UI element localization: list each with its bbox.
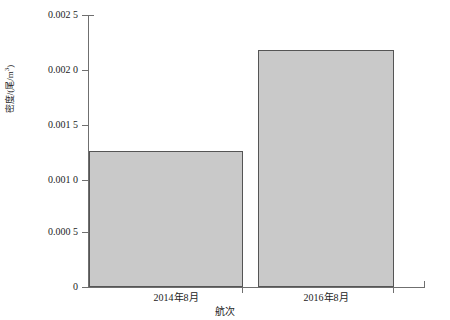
y-axis-label-0.0015: 0.001 5 [48, 120, 78, 130]
y-axis-label-0: 0 [73, 282, 78, 292]
bar-2016-08[interactable] [258, 50, 394, 287]
x-axis-tick-divider-2 [393, 287, 394, 293]
y-axis-top-cap [88, 15, 94, 16]
y-axis-label-0.0025: 0.002 5 [48, 10, 78, 20]
y-axis-tick-0.0020 [82, 70, 88, 71]
y-axis-label-0.0020: 0.002 0 [48, 65, 78, 75]
y-axis-label-0.0010: 0.001 0 [48, 175, 78, 185]
y-axis-tick-0.0015 [82, 125, 88, 126]
x-axis-category-label-2016-08: 2016年8月 [265, 292, 387, 304]
x-axis-line [88, 287, 425, 288]
y-axis-title-tail: ) [5, 65, 15, 68]
y-axis-title-superscript: 3 [3, 68, 11, 72]
y-axis-tick-0.0025 [82, 15, 88, 16]
y-axis-title-text: 密度/(尾/m [5, 71, 15, 113]
x-axis-tick-divider-1 [242, 287, 243, 293]
y-axis-tick-0.0010 [82, 180, 88, 181]
x-axis-title: 航次 [0, 306, 450, 318]
bar-chart-figure: 密度/(尾/m3) 0.002 5 0.002 0 0.001 5 0.001 … [0, 0, 450, 320]
y-axis-label-0.0005: 0.000 5 [48, 227, 78, 237]
y-axis-tick-0 [82, 287, 88, 288]
x-axis-end-cap [424, 281, 425, 288]
x-axis-category-label-2014-08: 2014年8月 [116, 292, 236, 304]
bar-2014-08[interactable] [89, 151, 243, 287]
y-axis-tick-0.0005 [82, 232, 88, 233]
y-axis-title: 密度/(尾/m3) [2, 44, 18, 134]
